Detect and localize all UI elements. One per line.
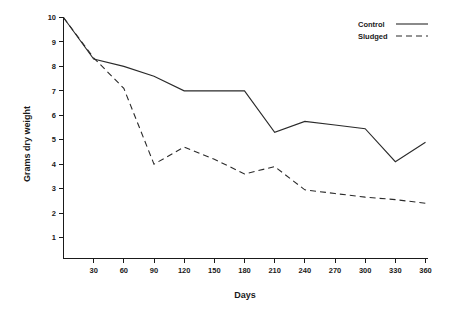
legend-label-control: Control	[358, 20, 385, 29]
x-tick-label: 360	[419, 266, 432, 275]
x-tick-label: 150	[208, 266, 221, 275]
y-tick-label: 2	[52, 209, 56, 218]
x-axis-ticks: 306090120150180210240270300330360	[89, 259, 431, 276]
legend: ControlSludged	[358, 20, 428, 41]
y-tick-label: 4	[52, 160, 57, 169]
series-line-sludged	[64, 18, 426, 204]
y-axis-ticks: 12345678910	[48, 13, 64, 242]
line-chart: 12345678910 3060901201501802102402703003…	[0, 0, 458, 317]
y-tick-label: 6	[52, 111, 56, 120]
x-tick-label: 300	[359, 266, 372, 275]
x-axis-title: Days	[234, 290, 256, 300]
x-tick-label: 120	[178, 266, 191, 275]
y-tick-label: 3	[52, 184, 56, 193]
y-tick-label: 8	[52, 62, 56, 71]
x-tick-label: 90	[150, 266, 158, 275]
y-tick-label: 10	[48, 13, 56, 22]
x-tick-label: 30	[89, 266, 97, 275]
y-tick-label: 7	[52, 87, 56, 96]
y-tick-label: 5	[52, 135, 56, 144]
x-tick-label: 180	[238, 266, 251, 275]
x-tick-label: 210	[268, 266, 281, 275]
x-tick-label: 240	[299, 266, 312, 275]
x-tick-label: 330	[389, 266, 402, 275]
legend-label-sludged: Sludged	[358, 32, 388, 41]
x-tick-label: 270	[329, 266, 342, 275]
series-group	[64, 18, 426, 204]
y-axis-title: Grams dry weight	[22, 106, 32, 182]
plot-area: 12345678910 3060901201501802102402703003…	[0, 0, 458, 317]
y-tick-label: 9	[52, 38, 56, 47]
y-tick-label: 1	[52, 233, 56, 242]
x-tick-label: 60	[120, 266, 128, 275]
